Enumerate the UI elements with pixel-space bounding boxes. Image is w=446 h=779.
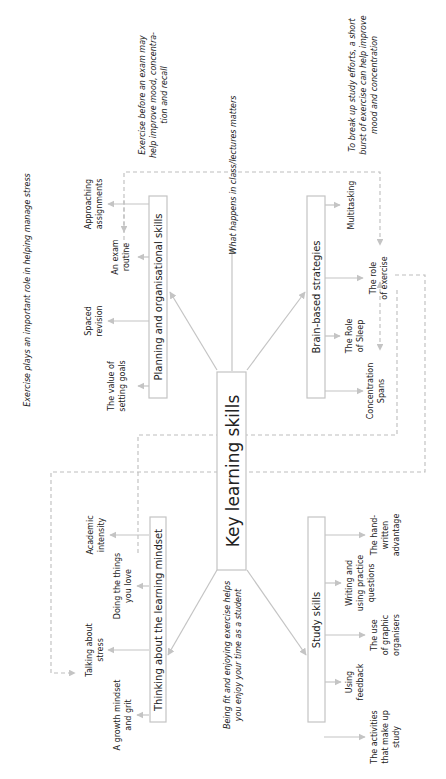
svg-text:Spans: Spans [377,379,386,403]
svg-text:of Sleep: of Sleep [356,320,365,352]
node-approaching-assignments: Approaching assignments [84,179,104,230]
node-role-of-sleep: The Role of Sleep [345,319,365,355]
svg-text:assignments: assignments [95,179,104,230]
svg-text:study: study [392,726,401,748]
svg-text:The activities: The activities [370,710,379,765]
svg-text:The Role: The Role [345,319,354,355]
note-exercise-before-exam: Exercise before an exam may help improve… [138,32,169,158]
svg-text:using practice: using practice [356,555,365,612]
svg-text:Academic: Academic [86,515,95,554]
branch-mindset-label: Thinking about the learning mindset [153,529,164,712]
svg-text:stress: stress [96,638,105,662]
svg-text:routine: routine [122,243,131,272]
svg-text:Exercise before an exam may: Exercise before an exam may [138,35,147,155]
svg-text:of graphic: of graphic [381,615,390,655]
node-setting-goals: The value of setting goals [107,360,127,412]
svg-text:revision: revision [95,305,104,336]
node-using-feedback: Using feedback [345,663,365,700]
svg-text:questions: questions [367,564,376,603]
svg-text:Multitasking: Multitasking [347,181,356,230]
svg-text:Using: Using [345,671,354,693]
svg-text:that make up: that make up [381,710,390,763]
svg-text:burst of exercise can help imp: burst of exercise can help improve [359,15,368,154]
svg-text:The use: The use [370,619,379,652]
svg-text:feedback: feedback [356,663,365,700]
svg-text:intensity: intensity [97,517,106,552]
svg-text:and grit: and grit [124,699,133,730]
svg-text:help improve mood, concentra-: help improve mood, concentra- [149,32,158,158]
svg-text:mood and concentration: mood and concentration [370,36,379,134]
svg-text:The value of: The value of [107,361,116,412]
node-activities-of-study: The activities that make up study [370,710,401,765]
svg-text:A growth mindset: A growth mindset [113,680,122,751]
svg-text:Approaching: Approaching [84,179,93,229]
svg-text:Writing and: Writing and [345,560,354,606]
node-growth-mindset: A growth mindset and grit [113,680,133,751]
svg-text:you love: you love [124,569,133,603]
svg-text:To break up study efforts, a s: To break up study efforts, a short [348,17,357,151]
svg-text:Spaced: Spaced [84,306,93,335]
center-title: Key learning skills [223,395,243,548]
mind-map-diagram: Key learning skills Planning and organis… [0,0,446,779]
node-doing-things-you-love: Doing the things you love [113,553,133,619]
branch-planning-label: Planning and organisational skills [153,213,164,380]
branch-brain-label: Brain-based strategies [311,240,322,353]
svg-text:advantage: advantage [392,514,401,557]
node-handwritten-advantage: The hand- written advantage [370,514,401,557]
node-role-of-exercise: The role of exercise [369,256,389,299]
note-being-fit: Being fit and enjoying exercise helps yo… [223,581,243,729]
branch-study-label: Study skills [311,592,322,649]
note-manage-stress: Exercise plays an important role in help… [23,173,32,406]
node-academic-intensity: Academic intensity [86,515,106,554]
svg-text:An exam: An exam [111,239,120,275]
svg-text:written: written [381,521,390,549]
svg-text:The role: The role [369,262,378,296]
svg-text:tion and recall: tion and recall [160,66,169,124]
svg-text:Concentration: Concentration [366,363,375,420]
node-graphic-organisers: The use of graphic organisers [370,614,401,656]
svg-text:setting goals: setting goals [118,360,127,412]
note-break-up-study: To break up study efforts, a short burst… [348,15,379,154]
node-talking-about-stress: Talking about stress [85,623,105,677]
node-practice-questions: Writing and using practice questions [345,555,376,612]
svg-text:Doing the things: Doing the things [113,553,122,619]
node-multitasking: Multitasking [347,181,356,230]
svg-text:Talking about: Talking about [85,623,94,677]
node-concentration-spans: Concentration Spans [366,363,386,420]
svg-text:The hand-: The hand- [370,515,379,557]
svg-text:of exercise: of exercise [380,256,389,299]
node-spaced-revision: Spaced revision [84,305,104,336]
svg-text:organisers: organisers [392,614,401,656]
svg-text:Being fit and enjoying exercis: Being fit and enjoying exercise helps [223,581,232,729]
note-lectures-matter: What happens in class/lectures matters [229,96,238,255]
node-exam-routine: An exam routine [111,239,131,275]
svg-text:you enjoy your time as a stude: you enjoy your time as a student [234,588,243,722]
